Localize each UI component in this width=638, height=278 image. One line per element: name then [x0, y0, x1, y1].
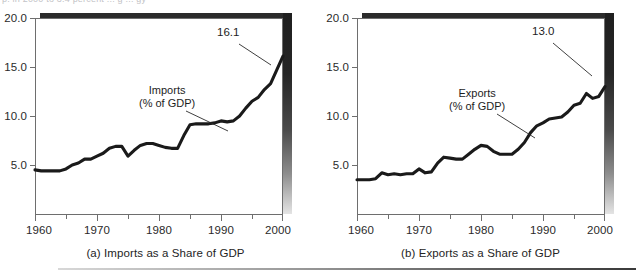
series-annotation-exports-line2: (% of GDP) [449, 100, 505, 113]
y-axis-label-5: 5.0 [333, 159, 349, 171]
caption-exports: (b) Exports as a Share of GDP [319, 247, 638, 259]
x-tick-1980 [159, 214, 160, 221]
x-tick-1975 [128, 214, 129, 219]
x-tick-1965 [66, 214, 67, 219]
x-tick-1985 [512, 214, 513, 219]
x-tick-1980 [481, 214, 482, 221]
x-axis-label-1970: 1970 [84, 224, 110, 236]
caption-imports: (a) Imports as a Share of GDP [0, 247, 325, 259]
series-annotation-exports-line1: Exports [449, 87, 505, 100]
series-annotation-imports-line2: (% of GDP) [139, 97, 195, 110]
x-axis-label-1970: 1970 [406, 224, 432, 236]
y-axis-label-20: 20.0 [4, 12, 27, 24]
x-tick-1975 [450, 214, 451, 219]
figure-trade-share-of-gdp: p. in 2000 to 3.4 percent ... g ... gy 2… [0, 0, 638, 278]
x-axis-label-1960: 1960 [348, 224, 374, 236]
x-tick-2000 [282, 214, 283, 221]
y-axis-label-20: 20.0 [326, 12, 349, 24]
x-axis-label-2000: 2000 [265, 224, 291, 236]
x-axis-label-1990: 1990 [208, 224, 234, 236]
x-tick-1990 [221, 214, 222, 221]
annotation-leaders-imports [35, 18, 283, 214]
x-axis-label-1980: 1980 [146, 224, 172, 236]
series-annotation-imports: Imports (% of GDP) [139, 84, 195, 111]
footer-divider-rule [58, 268, 636, 270]
x-axis-label-1990: 1990 [530, 224, 556, 236]
series-annotation-exports: Exports (% of GDP) [449, 87, 505, 114]
y-axis-label-10: 10.0 [4, 110, 27, 122]
x-tick-2000 [604, 214, 605, 221]
x-axis-label-2000: 2000 [587, 224, 613, 236]
frame-shadow-right [283, 13, 292, 214]
series-annotation-imports-line1: Imports [139, 84, 195, 97]
end-value-label-imports: 16.1 [217, 25, 239, 39]
panel-imports: 20.0 15.0 10.0 5.0 1960 1970 1980 1990 2… [0, 0, 319, 278]
x-tick-1985 [190, 214, 191, 219]
y-axis-label-5: 5.0 [11, 159, 27, 171]
frame-shadow-right [605, 13, 614, 214]
y-axis-label-15: 15.0 [4, 61, 27, 73]
x-tick-1995 [252, 214, 253, 219]
end-value-label-exports: 13.0 [532, 24, 554, 38]
x-tick-1970 [97, 214, 98, 221]
y-axis-label-10: 10.0 [326, 110, 349, 122]
x-tick-1990 [543, 214, 544, 221]
y-axis-label-15: 15.0 [326, 61, 349, 73]
x-axis-label-1960: 1960 [26, 224, 52, 236]
x-tick-1960 [35, 214, 36, 221]
x-axis-label-1980: 1980 [468, 224, 494, 236]
x-tick-1960 [357, 214, 358, 221]
annotation-leaders-exports [357, 18, 605, 214]
x-tick-1970 [419, 214, 420, 221]
plot-area-exports: 20.0 15.0 10.0 5.0 1960 1970 1980 1990 2… [357, 18, 605, 214]
x-tick-1995 [574, 214, 575, 219]
plot-area-imports: 20.0 15.0 10.0 5.0 1960 1970 1980 1990 2… [35, 18, 283, 214]
panel-exports: 20.0 15.0 10.0 5.0 1960 1970 1980 1990 2… [319, 0, 638, 278]
x-tick-1965 [388, 214, 389, 219]
